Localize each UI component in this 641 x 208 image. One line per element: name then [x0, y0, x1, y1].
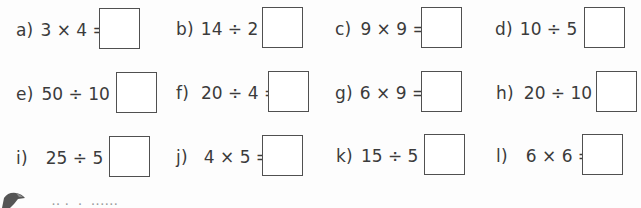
pencil-icon: [0, 190, 26, 208]
problem-label: e): [16, 84, 34, 104]
answer-box[interactable]: [421, 71, 462, 112]
problem-c: c) 9 × 9 =: [335, 7, 465, 51]
problem-d: d) 10 ÷ 5 =: [495, 7, 635, 51]
problem-expression: 9 × 9 =: [360, 19, 426, 39]
answer-box[interactable]: [584, 7, 625, 48]
answer-box[interactable]: [262, 135, 303, 176]
answer-box[interactable]: [109, 136, 150, 177]
problem-label: b): [176, 19, 194, 39]
answer-box[interactable]: [116, 72, 157, 113]
problem-expression: 4 × 5 =: [204, 147, 270, 167]
answer-box[interactable]: [421, 7, 462, 48]
answer-box[interactable]: [424, 134, 465, 175]
problem-i: i) 25 ÷ 5 =: [16, 136, 156, 180]
problem-label: j): [176, 147, 188, 167]
section-heading-cropped: ·· · · ······: [52, 200, 119, 208]
problem-label: h): [496, 83, 514, 103]
problem-l: l) 6 × 6 =: [496, 134, 636, 178]
problem-label: i): [16, 148, 28, 168]
problem-label: a): [16, 20, 33, 40]
problem-a: a) 3 × 4 =: [16, 8, 146, 52]
problem-h: h) 20 ÷ 10 =: [496, 71, 641, 115]
problem-expression: 6 × 9 =: [360, 83, 426, 103]
problem-expression: 3 × 4 =: [40, 20, 106, 40]
answer-box[interactable]: [596, 71, 637, 112]
problem-label: d): [495, 19, 513, 39]
problem-label: c): [335, 19, 351, 39]
math-worksheet: a) 3 × 4 = b) 14 ÷ 2 = c) 9 × 9 = d) 10 …: [0, 0, 641, 208]
answer-box[interactable]: [268, 71, 309, 112]
answer-box[interactable]: [99, 8, 140, 49]
problem-g: g) 6 × 9 =: [335, 71, 465, 115]
answer-box[interactable]: [582, 134, 623, 175]
problem-k: k) 15 ÷ 5 =: [336, 134, 466, 178]
problem-j: j) 4 × 5 =: [176, 135, 306, 179]
problem-expression: 20 ÷ 4 =: [201, 83, 278, 103]
problem-label: f): [176, 83, 189, 103]
answer-box[interactable]: [262, 7, 303, 48]
problem-label: g): [335, 83, 353, 103]
problem-label: k): [336, 146, 353, 166]
problem-e: e) 50 ÷ 10 =: [16, 72, 166, 116]
problem-b: b) 14 ÷ 2 =: [176, 7, 306, 51]
problem-label: l): [496, 146, 508, 166]
problem-f: f) 20 ÷ 4 =: [176, 71, 316, 115]
